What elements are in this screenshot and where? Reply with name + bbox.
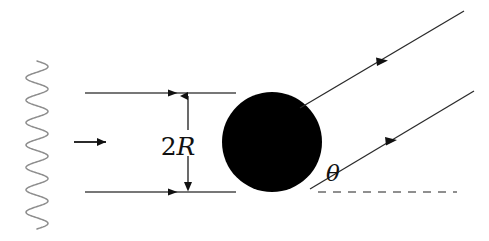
diameter-label-number: 2 xyxy=(161,132,177,161)
diameter-dimension: 2R xyxy=(161,96,196,192)
angle-label: θ xyxy=(326,160,340,186)
diameter-label-symbol: R xyxy=(176,132,196,161)
dimension-arrow-down-head xyxy=(184,182,192,192)
diameter-label: 2R xyxy=(161,132,196,161)
incident-ray-bottom-arrowhead xyxy=(168,189,178,196)
incident-ray-top-arrowhead xyxy=(168,90,178,97)
opaque-sphere xyxy=(222,92,322,192)
incident-plane-wave xyxy=(26,61,48,229)
diagram-canvas: 2R θ xyxy=(0,0,489,241)
wave-path xyxy=(26,61,48,229)
scattering-diagram: 2R θ xyxy=(0,0,489,241)
